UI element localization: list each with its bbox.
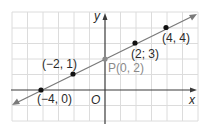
label-neg4-0: (−4, 0) [37, 92, 72, 106]
point-neg2-1 [70, 71, 75, 76]
y-axis [103, 13, 108, 124]
coordinate-plane: y x O (−4, 0) (−2, 1) P(0, 2) (2; 3) (4,… [0, 0, 202, 133]
y-axis-arrow-icon [103, 13, 108, 20]
point-p-0-2 [102, 56, 107, 61]
label-neg2-1: (−2, 1) [42, 57, 77, 71]
origin-label: O [91, 93, 100, 107]
x-axis-label: x [188, 93, 196, 107]
label-p-0-2: P(0, 2) [108, 61, 144, 75]
point-2-3 [132, 40, 137, 45]
label-2-3: (2; 3) [131, 47, 159, 61]
x-axis-arrow-icon [190, 88, 197, 93]
y-axis-label: y [93, 9, 101, 23]
point-4-4 [163, 25, 168, 30]
label-4-4: (4, 4) [162, 31, 190, 45]
